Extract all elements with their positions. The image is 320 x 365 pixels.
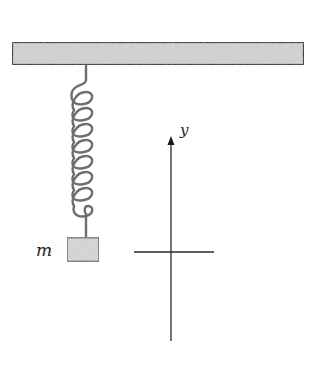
spring bbox=[72, 66, 93, 237]
ceiling-support bbox=[12, 42, 304, 65]
y-axis-label: y bbox=[179, 121, 189, 139]
y-axis-arrow-icon bbox=[168, 136, 175, 145]
mass-block bbox=[67, 238, 99, 262]
mass-label: m bbox=[36, 240, 52, 260]
mass-spring-diagram: m y bbox=[0, 0, 320, 365]
